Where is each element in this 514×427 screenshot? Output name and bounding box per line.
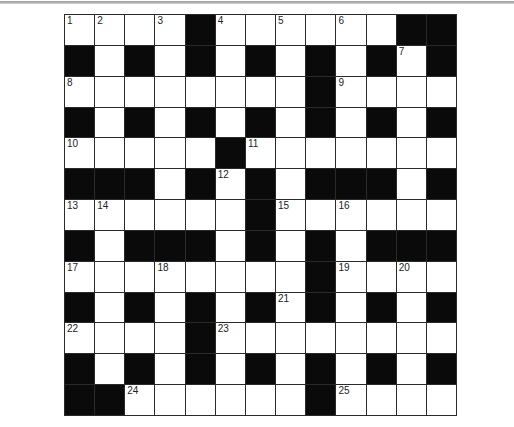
letter-cell[interactable]	[336, 138, 365, 168]
letter-cell[interactable]	[367, 138, 396, 168]
letter-cell[interactable]	[246, 385, 275, 415]
letter-cell[interactable]	[397, 138, 426, 168]
letter-cell[interactable]: 3	[155, 15, 184, 45]
letter-cell[interactable]	[155, 169, 184, 199]
letter-cell[interactable]	[216, 108, 245, 138]
letter-cell[interactable]: 20	[397, 262, 426, 292]
letter-cell[interactable]: 11	[246, 138, 275, 168]
letter-cell[interactable]	[95, 138, 124, 168]
letter-cell[interactable]	[186, 385, 215, 415]
letter-cell[interactable]	[276, 77, 305, 107]
letter-cell[interactable]	[276, 323, 305, 353]
letter-cell[interactable]: 7	[397, 46, 426, 76]
letter-cell[interactable]: 23	[216, 323, 245, 353]
letter-cell[interactable]	[95, 323, 124, 353]
letter-cell[interactable]	[336, 293, 365, 323]
letter-cell[interactable]	[246, 15, 275, 45]
letter-cell[interactable]: 8	[65, 77, 94, 107]
letter-cell[interactable]	[216, 77, 245, 107]
letter-cell[interactable]	[216, 46, 245, 76]
letter-cell[interactable]	[276, 231, 305, 261]
letter-cell[interactable]	[216, 200, 245, 230]
letter-cell[interactable]	[95, 262, 124, 292]
letter-cell[interactable]	[155, 354, 184, 384]
letter-cell[interactable]	[95, 231, 124, 261]
letter-cell[interactable]	[306, 200, 335, 230]
letter-cell[interactable]	[276, 385, 305, 415]
letter-cell[interactable]	[125, 200, 154, 230]
letter-cell[interactable]	[367, 385, 396, 415]
letter-cell[interactable]: 4	[216, 15, 245, 45]
letter-cell[interactable]	[427, 200, 456, 230]
letter-cell[interactable]	[155, 138, 184, 168]
letter-cell[interactable]	[367, 200, 396, 230]
letter-cell[interactable]	[397, 200, 426, 230]
letter-cell[interactable]	[216, 354, 245, 384]
letter-cell[interactable]	[125, 262, 154, 292]
letter-cell[interactable]	[155, 46, 184, 76]
letter-cell[interactable]	[95, 108, 124, 138]
letter-cell[interactable]: 14	[95, 200, 124, 230]
letter-cell[interactable]: 5	[276, 15, 305, 45]
letter-cell[interactable]: 19	[336, 262, 365, 292]
letter-cell[interactable]	[155, 108, 184, 138]
letter-cell[interactable]	[336, 323, 365, 353]
letter-cell[interactable]	[336, 108, 365, 138]
letter-cell[interactable]: 9	[336, 77, 365, 107]
letter-cell[interactable]	[125, 138, 154, 168]
letter-cell[interactable]	[397, 323, 426, 353]
letter-cell[interactable]	[397, 293, 426, 323]
letter-cell[interactable]	[216, 293, 245, 323]
letter-cell[interactable]	[397, 169, 426, 199]
letter-cell[interactable]	[336, 354, 365, 384]
letter-cell[interactable]	[186, 77, 215, 107]
letter-cell[interactable]	[276, 262, 305, 292]
letter-cell[interactable]	[306, 323, 335, 353]
letter-cell[interactable]	[306, 138, 335, 168]
letter-cell[interactable]	[427, 77, 456, 107]
letter-cell[interactable]	[427, 138, 456, 168]
letter-cell[interactable]: 24	[125, 385, 154, 415]
letter-cell[interactable]	[427, 262, 456, 292]
letter-cell[interactable]	[336, 46, 365, 76]
letter-cell[interactable]	[246, 262, 275, 292]
letter-cell[interactable]	[397, 108, 426, 138]
letter-cell[interactable]	[367, 77, 396, 107]
letter-cell[interactable]	[276, 46, 305, 76]
letter-cell[interactable]	[216, 262, 245, 292]
letter-cell[interactable]: 21	[276, 293, 305, 323]
letter-cell[interactable]	[367, 323, 396, 353]
letter-cell[interactable]	[125, 77, 154, 107]
letter-cell[interactable]	[276, 108, 305, 138]
letter-cell[interactable]	[397, 385, 426, 415]
letter-cell[interactable]	[367, 15, 396, 45]
letter-cell[interactable]: 18	[155, 262, 184, 292]
letter-cell[interactable]	[397, 354, 426, 384]
letter-cell[interactable]	[95, 77, 124, 107]
letter-cell[interactable]	[427, 323, 456, 353]
letter-cell[interactable]	[276, 354, 305, 384]
letter-cell[interactable]: 16	[336, 200, 365, 230]
letter-cell[interactable]	[397, 77, 426, 107]
letter-cell[interactable]: 12	[216, 169, 245, 199]
letter-cell[interactable]	[155, 77, 184, 107]
letter-cell[interactable]	[186, 262, 215, 292]
letter-cell[interactable]: 6	[336, 15, 365, 45]
letter-cell[interactable]	[186, 138, 215, 168]
letter-cell[interactable]	[95, 293, 124, 323]
letter-cell[interactable]	[246, 323, 275, 353]
letter-cell[interactable]	[216, 385, 245, 415]
letter-cell[interactable]	[186, 200, 215, 230]
letter-cell[interactable]: 17	[65, 262, 94, 292]
letter-cell[interactable]	[216, 231, 245, 261]
letter-cell[interactable]	[155, 323, 184, 353]
letter-cell[interactable]: 10	[65, 138, 94, 168]
letter-cell[interactable]	[155, 293, 184, 323]
letter-cell[interactable]: 25	[336, 385, 365, 415]
letter-cell[interactable]: 2	[95, 15, 124, 45]
letter-cell[interactable]: 13	[65, 200, 94, 230]
letter-cell[interactable]	[125, 323, 154, 353]
letter-cell[interactable]	[276, 138, 305, 168]
letter-cell[interactable]	[246, 77, 275, 107]
letter-cell[interactable]	[125, 15, 154, 45]
